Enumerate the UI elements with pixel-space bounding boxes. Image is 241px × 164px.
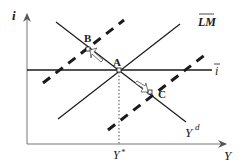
point-c-label: C [158, 88, 166, 100]
svg-text:Y: Y [185, 125, 194, 140]
arrow-a-to-c-icon [135, 81, 148, 92]
is-lm-diagram: i Y i LM Y d A B C Y * [0, 0, 241, 164]
point-a-marker [117, 68, 121, 72]
yd-label: Y d [185, 122, 200, 140]
point-b-label: B [84, 32, 92, 44]
x-axis-label: Y [224, 148, 233, 163]
lm-shift-right-dashed [108, 54, 206, 130]
point-a-label: A [113, 56, 121, 68]
point-b-marker [86, 47, 90, 51]
lm-shift-left-dashed [43, 20, 124, 83]
yd-superscript: d [195, 122, 200, 132]
svg-text:LM: LM [197, 15, 216, 29]
svg-text:i: i [215, 64, 218, 78]
lm-label: LM [197, 14, 216, 29]
point-c-marker [148, 90, 152, 94]
svg-text:*: * [121, 148, 125, 157]
y-axis-label: i [12, 8, 16, 23]
svg-text:Y: Y [113, 148, 121, 162]
arrow-a-to-b-icon [90, 48, 103, 62]
y-star-label: Y * [113, 148, 125, 162]
ibar-label: i [214, 64, 220, 78]
